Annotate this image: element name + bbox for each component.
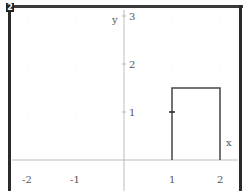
x-axis-label: x bbox=[226, 137, 232, 148]
grid-dot bbox=[27, 15, 28, 16]
grid-dot bbox=[219, 63, 220, 64]
grid-dot bbox=[219, 15, 220, 16]
grid-dot bbox=[27, 111, 28, 112]
tick-labels: -2-112123 bbox=[22, 11, 223, 185]
grid-dot bbox=[75, 111, 76, 112]
grid-dot bbox=[75, 63, 76, 64]
grid-dot bbox=[171, 63, 172, 64]
x-tick-label: 1 bbox=[169, 174, 175, 185]
x-tick-label: -1 bbox=[70, 174, 80, 185]
plot-area: y x -2-112123 bbox=[0, 0, 247, 191]
x-tick-label: -2 bbox=[22, 174, 32, 185]
grid-dot bbox=[171, 15, 172, 16]
y-tick-label: 3 bbox=[129, 11, 135, 22]
y-axis-label: y bbox=[111, 14, 118, 25]
y-tick-label: 1 bbox=[129, 107, 135, 118]
step-curve bbox=[172, 88, 220, 160]
grid-dot bbox=[27, 63, 28, 64]
grid-dot bbox=[75, 15, 76, 16]
x-tick-label: 2 bbox=[217, 174, 223, 185]
y-tick-label: 2 bbox=[129, 59, 135, 70]
